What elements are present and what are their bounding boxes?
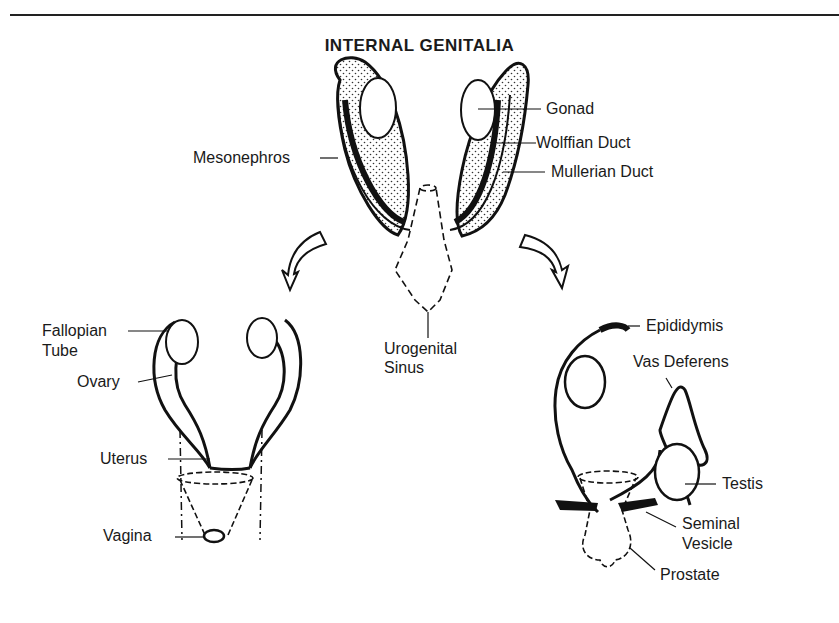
label-mullerian-duct: Mullerian Duct bbox=[551, 162, 653, 181]
label-epididymis: Epididymis bbox=[646, 316, 723, 335]
vaginal-opening bbox=[204, 530, 224, 542]
label-fallopian-tube-line1: Fallopian bbox=[42, 321, 107, 340]
label-seminal-vesicle-line1: Seminal bbox=[682, 514, 740, 533]
right-testis bbox=[655, 444, 699, 500]
left-gonad bbox=[360, 78, 396, 138]
label-vagina: Vagina bbox=[103, 526, 152, 545]
label-ovary: Ovary bbox=[77, 372, 120, 391]
label-gonad: Gonad bbox=[546, 99, 594, 118]
arrow-right-icon bbox=[520, 235, 568, 288]
label-prostate: Prostate bbox=[660, 565, 720, 584]
right-gonad bbox=[461, 80, 495, 140]
label-fallopian-tube-line2: Tube bbox=[42, 341, 78, 360]
vagina-outline bbox=[177, 472, 253, 535]
left-ovary bbox=[166, 320, 198, 364]
right-seminal-vesicle bbox=[618, 498, 658, 512]
prostate-outline bbox=[578, 471, 638, 567]
label-uterus: Uterus bbox=[100, 449, 147, 468]
left-testis bbox=[565, 356, 605, 408]
label-wolffian-duct: Wolffian Duct bbox=[536, 133, 631, 152]
right-ovary bbox=[247, 318, 277, 358]
label-urogenital-sinus-line1: Urogenital bbox=[384, 339, 457, 358]
label-testis: Testis bbox=[722, 474, 763, 493]
label-urogenital-sinus-line2: Sinus bbox=[384, 358, 424, 377]
label-vas-deferens: Vas Deferens bbox=[633, 352, 729, 371]
label-mesonephros: Mesonephros bbox=[193, 148, 290, 167]
arrow-left-icon bbox=[282, 232, 326, 290]
label-seminal-vesicle-line2: Vesicle bbox=[682, 534, 733, 553]
left-seminal-vesicle bbox=[555, 500, 598, 511]
